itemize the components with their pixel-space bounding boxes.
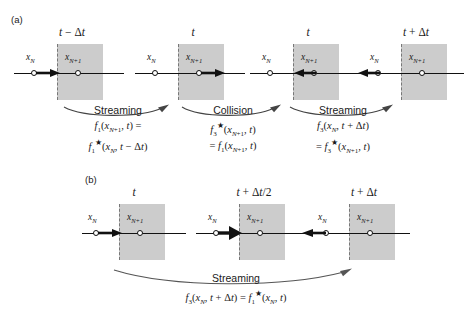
figure-root: (a) t − Δt xN xN+1 t xN xN+1 (0, 0, 469, 315)
equation-a-collision-line1: f3★(xN+1, t) (178, 120, 288, 140)
cell-a4: t + Δt xN xN+1 (358, 26, 468, 104)
process-a-streaming-2: Streaming (288, 104, 398, 120)
cell-b3-xnp1-label: xN+1 (357, 212, 373, 224)
cell-b3: t + Δt xN xN+1 (306, 186, 416, 264)
equation-a-streaming-1-line2: f1★(xN, t − Δt) (60, 137, 176, 157)
cell-a2-wall-dashed-line (178, 44, 179, 100)
time-label-a3: t (278, 26, 338, 38)
time-label-a1: t − Δt (42, 26, 102, 38)
cell-b1-xn-label: xN (88, 212, 97, 224)
equation-a-streaming-1-line1: f1(xN+1, t) = (60, 120, 176, 137)
time-label-a2: t (163, 26, 223, 38)
process-a-streaming-1-caption: Streaming (62, 104, 174, 116)
cell-a4-node-xnp1 (419, 70, 425, 76)
equation-b-streaming: f3(xN, t + Δt) = f1★(xN, t) (112, 288, 360, 308)
equation-a-streaming-2-line1: f3(xN, t + Δt) (286, 120, 400, 137)
cell-a3-velocity-arrow-left (294, 66, 316, 80)
time-label-b1: t (104, 186, 164, 198)
cell-b2: t + Δt/2 xN xN+1 (196, 186, 306, 264)
process-b-streaming: Streaming (112, 268, 360, 286)
cell-b1: t xN xN+1 (76, 186, 186, 264)
equation-a-streaming-2-line2: = f3★(xN+1, t) (286, 137, 400, 157)
cell-a4-xnp1-label: xN+1 (409, 52, 425, 64)
process-a-collision-caption: Collision (180, 104, 286, 116)
cell-a2-velocity-arrow-right (201, 66, 227, 80)
cell-b2-xn-label: xN (208, 212, 217, 224)
process-a-streaming-1: Streaming (62, 104, 174, 120)
time-label-b2: t + Δt/2 (216, 186, 292, 198)
cell-a4-velocity-arrow-left (358, 66, 380, 80)
time-label-b3: t + Δt (334, 186, 394, 198)
time-label-a4: t + Δt (386, 26, 446, 38)
cell-a1-velocity-arrow-right (36, 66, 62, 80)
equation-a-streaming-2: f3(xN, t + Δt) = f3★(xN+1, t) (286, 120, 400, 157)
cell-a4-wall-dashed-line (401, 44, 402, 100)
equation-a-collision-line2: = f1(xN+1, t) (178, 140, 288, 157)
cell-a3-xn-label: xN (262, 52, 271, 64)
cell-b1-node-xnp1 (137, 230, 143, 236)
cell-a2-xn-label: xN (147, 52, 156, 64)
cell-b2-node-xnp1 (257, 230, 263, 236)
panel-b-label: (b) (85, 174, 97, 185)
cell-b3-xn-label: xN (318, 212, 327, 224)
cell-a1: t − Δt xN xN+1 (14, 26, 124, 104)
process-a-collision: Collision (180, 104, 286, 120)
process-b-streaming-caption: Streaming (112, 272, 360, 284)
cell-a2-node-xn (152, 70, 158, 76)
cell-b3-velocity-arrow-left (302, 226, 326, 240)
cell-a3: t xN xN+1 (250, 26, 360, 104)
cell-a3-xnp1-label: xN+1 (301, 52, 317, 64)
cell-b3-node-xnp1 (367, 230, 373, 236)
cell-b2-velocity-arrow-to-wall (218, 223, 244, 243)
cell-b3-wall-dashed-line (349, 204, 350, 260)
cell-b1-xnp1-label: xN+1 (127, 212, 143, 224)
cell-a1-xn-label: xN (26, 52, 35, 64)
cell-a2: t xN xN+1 (135, 26, 245, 104)
cell-a1-xnp1-label: xN+1 (65, 52, 81, 64)
panel-a-label: (a) (11, 14, 23, 25)
cell-a3-node-xn (267, 70, 273, 76)
cell-b2-xnp1-label: xN+1 (247, 212, 263, 224)
cell-a1-node-xnp1 (75, 70, 81, 76)
cell-b1-velocity-arrow-right (98, 226, 124, 240)
cell-a4-xn-label: xN (370, 52, 379, 64)
process-a-streaming-2-caption: Streaming (288, 104, 398, 116)
equation-b-streaming-line1: f3(xN, t + Δt) = f1★(xN, t) (112, 288, 360, 308)
equation-a-streaming-1: f1(xN+1, t) = f1★(xN, t − Δt) (60, 120, 176, 157)
cell-a2-xnp1-label: xN+1 (186, 52, 202, 64)
equation-a-collision: f3★(xN+1, t) = f1(xN+1, t) (178, 120, 288, 157)
